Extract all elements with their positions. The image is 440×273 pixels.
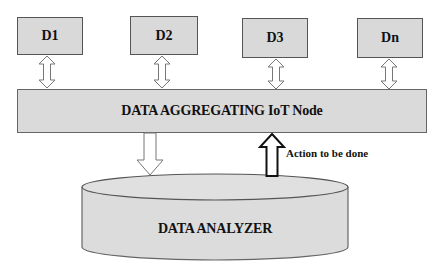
up-arrow-icon [260,134,284,176]
bidirectional-arrow-icon [268,59,284,89]
down-arrow-icon [137,133,163,175]
analyzer-label: DATA ANALYZER [82,221,348,237]
analyzer-cylinder [82,174,348,260]
bidirectional-arrow-icon [154,56,170,88]
bidirectional-arrow-icon [39,56,55,88]
action-label: Action to be done [286,147,368,159]
bidirectional-arrow-icon [381,59,397,89]
